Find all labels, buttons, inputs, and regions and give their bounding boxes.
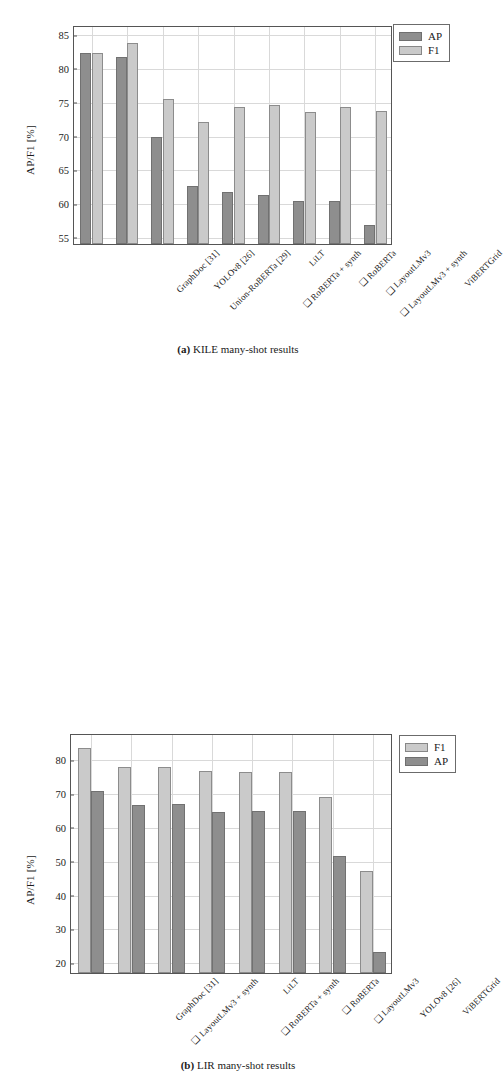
bar-f1-4	[199, 771, 212, 973]
y-axis-tick-label: 30	[56, 924, 72, 935]
bar-f1-4	[198, 122, 209, 244]
bar-ap-3	[172, 804, 185, 973]
figure-lir-many-shot: AP/F1 [%] 20304050607080 GraphDoc [31]❑ …	[0, 360, 476, 725]
y-axis-label-b: AP/F1 [%]	[24, 855, 36, 905]
bar-f1-3	[163, 99, 174, 244]
legend-item-ap: AP	[399, 29, 442, 43]
figure-kile-many-shot: AP/F1 [%] 55606570758085 GraphDoc [31]YO…	[0, 0, 476, 360]
y-axis-tick-label: 80	[56, 755, 72, 766]
gridline-horizontal	[71, 760, 391, 761]
bar-f1-1	[78, 748, 91, 973]
bar-f1-6	[279, 772, 292, 973]
bar-ap-9	[364, 225, 375, 244]
bar-ap-3	[151, 137, 162, 244]
gridline-vertical	[373, 735, 374, 973]
legend-swatch-icon	[405, 757, 428, 766]
bar-f1-6	[269, 105, 280, 244]
bar-ap-7	[293, 201, 304, 244]
bar-ap-5	[222, 192, 233, 244]
legend-swatch-icon	[405, 743, 428, 752]
bar-f1-5	[234, 107, 245, 244]
y-axis-tick-label: 70	[59, 131, 75, 142]
bar-f1-9	[376, 111, 387, 244]
legend-a: APF1	[393, 24, 450, 62]
bar-ap-6	[258, 195, 269, 244]
y-axis-tick-label: 70	[56, 789, 72, 800]
y-axis-tick-label: 40	[56, 890, 72, 901]
bar-ap-4	[187, 186, 198, 244]
bar-ap-4	[212, 812, 225, 973]
legend-label: F1	[434, 741, 446, 753]
bar-ap-8	[329, 201, 340, 244]
legend-b: F1AP	[399, 735, 456, 773]
bar-f1-5	[239, 772, 252, 973]
caption-text: LIR many-shot results	[194, 1059, 295, 1071]
bar-ap-8	[373, 952, 386, 973]
legend-swatch-icon	[399, 32, 422, 41]
legend-label: AP	[434, 755, 448, 767]
bar-f1-8	[340, 107, 351, 244]
caption-prefix: (b)	[181, 1059, 194, 1071]
plot-area-b: 20304050607080	[70, 734, 392, 974]
bar-ap-2	[132, 805, 145, 973]
y-axis-tick-label: 50	[56, 856, 72, 867]
x-axis-labels-b: GraphDoc [31]❑ LayoutLMv3 + synthLiLT❑ R…	[0, 360, 476, 480]
bar-ap-7	[333, 856, 346, 973]
legend-item-ap: AP	[405, 754, 448, 768]
figure-caption-b: (b) LIR many-shot results	[0, 1059, 476, 1071]
bar-f1-8	[360, 871, 373, 973]
bar-ap-6	[293, 811, 306, 973]
y-axis-tick-label: 60	[56, 822, 72, 833]
bar-f1-7	[319, 797, 332, 973]
bar-f1-3	[158, 767, 171, 973]
legend-item-f1: F1	[399, 43, 442, 57]
caption-text: KILE many-shot results	[190, 343, 298, 355]
bar-f1-2	[118, 767, 131, 973]
bar-ap-5	[252, 811, 265, 973]
caption-prefix: (a)	[177, 343, 190, 355]
legend-label: AP	[428, 30, 442, 42]
y-axis-tick-label: 20	[56, 958, 72, 969]
y-axis-tick-label: 60	[59, 199, 75, 210]
legend-label: F1	[428, 44, 440, 56]
legend-item-f1: F1	[405, 740, 448, 754]
bar-ap-1	[91, 791, 104, 973]
y-axis-label-a: AP/F1 [%]	[24, 125, 36, 175]
y-axis-tick-label: 55	[59, 232, 75, 243]
figure-caption-a: (a) KILE many-shot results	[0, 343, 476, 355]
legend-swatch-icon	[399, 46, 422, 55]
bar-f1-7	[305, 112, 316, 244]
y-axis-tick-label: 65	[59, 165, 75, 176]
